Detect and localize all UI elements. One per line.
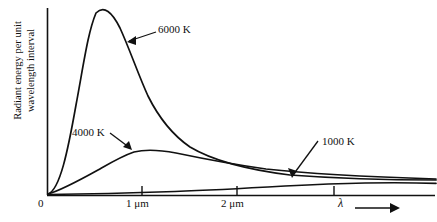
curve-1000k — [48, 183, 436, 195]
x-tick-label-origin: 0 — [38, 198, 44, 209]
curve-label-6000k: 6000 K — [158, 24, 191, 35]
arrow-head-1000k — [288, 168, 297, 178]
arrow-head-4000k — [123, 141, 132, 150]
x-tick-label-2um: 2 μm — [221, 198, 244, 209]
curve-6000k — [48, 10, 436, 194]
plot-canvas — [0, 0, 437, 222]
curve-label-1000k: 1000 K — [322, 136, 355, 147]
blackbody-radiation-figure: Radiant energy per unit wavelength inter… — [0, 0, 437, 222]
arrow-head-6000k — [127, 36, 136, 45]
arrow-line-1000k — [293, 141, 318, 175]
curve-label-4000k: 4000 K — [72, 127, 105, 138]
x-tick-label-1um: 1 μm — [126, 198, 149, 209]
x-axis-symbol-lambda: λ — [338, 197, 343, 209]
curve-4000k — [48, 150, 436, 194]
lambda-arrow-head — [390, 203, 400, 213]
